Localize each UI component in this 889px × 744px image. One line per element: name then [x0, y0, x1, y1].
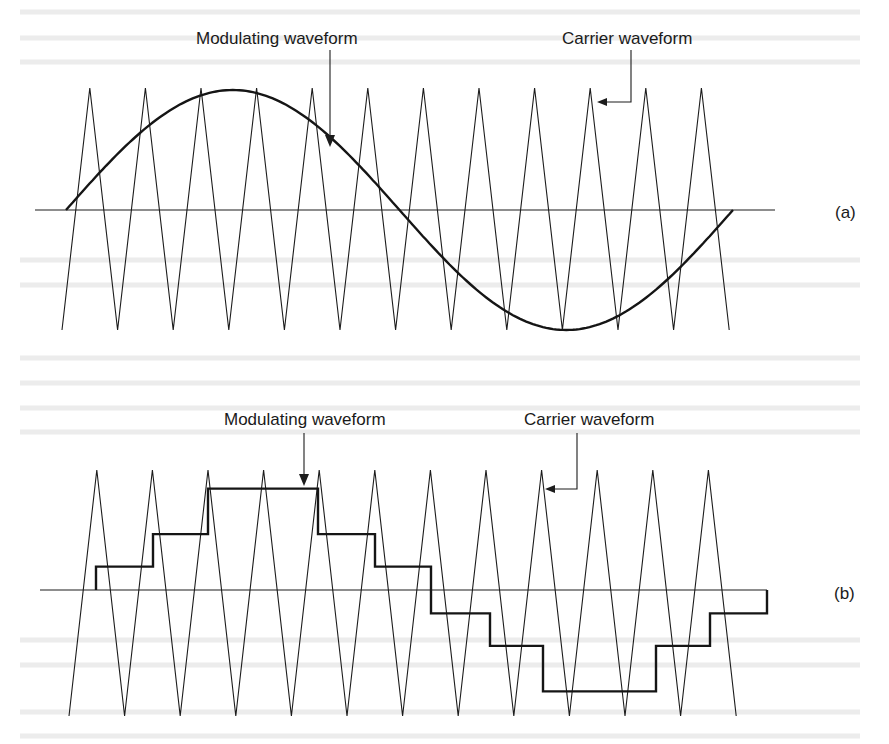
panel-b-tag: (b): [834, 584, 855, 603]
panel-b-carrier-leader: [551, 433, 577, 489]
panel-a-carrier-waveform: [62, 88, 729, 330]
panel-a-carrier-label: Carrier waveform: [562, 29, 692, 48]
panel-b: Modulating waveform Carrier waveform (b): [40, 410, 855, 716]
panel-a-modulating-label: Modulating waveform: [196, 29, 358, 48]
panel-b-carrier-arrowhead: [545, 485, 555, 493]
panel-a-carrier-arrowhead: [597, 98, 607, 106]
panel-b-carrier-label: Carrier waveform: [524, 410, 654, 429]
panel-b-carrier-waveform: [69, 470, 736, 716]
panel-a-tag: (a): [835, 203, 856, 222]
panel-b-modulating-label: Modulating waveform: [224, 410, 386, 429]
panel-a-carrier-leader: [603, 50, 631, 102]
pwm-figure: Modulating waveform Carrier waveform (a)…: [0, 0, 889, 744]
panel-b-modulating-arrowhead: [299, 474, 309, 486]
background-text-bleed: [20, 12, 860, 736]
